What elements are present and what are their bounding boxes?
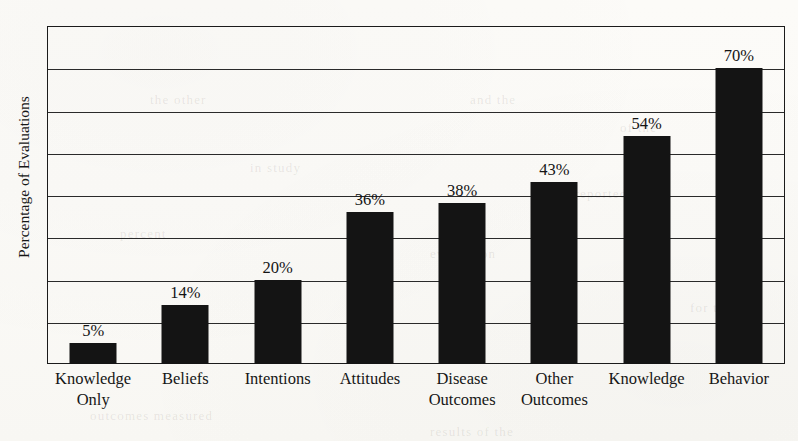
- x-axis-label-line: Only: [38, 389, 148, 410]
- bar-chart: Percentage of Evaluations 5%14%20%36%38%…: [0, 0, 798, 441]
- bar-slot: 36%: [324, 26, 416, 364]
- bar[interactable]: [70, 343, 117, 364]
- bar[interactable]: [715, 68, 762, 364]
- bar-slot: 54%: [601, 26, 693, 364]
- bar-slot: 5%: [47, 26, 139, 364]
- bar[interactable]: [346, 212, 393, 364]
- x-axis-label: Behavior: [684, 368, 794, 389]
- bar[interactable]: [531, 182, 578, 364]
- bars-layer: 5%14%20%36%38%43%54%70%: [47, 26, 785, 364]
- bar-value-label: 54%: [632, 114, 662, 134]
- bar-value-label: 5%: [82, 321, 104, 341]
- bar-value-label: 14%: [170, 283, 200, 303]
- bar-value-label: 70%: [724, 46, 754, 66]
- bar[interactable]: [439, 203, 486, 364]
- bar-value-label: 43%: [539, 160, 569, 180]
- bar-value-label: 20%: [263, 258, 293, 278]
- bar[interactable]: [254, 280, 301, 365]
- bar[interactable]: [162, 305, 209, 364]
- x-axis-label-line: Outcomes: [499, 389, 609, 410]
- x-axis-label-line: Behavior: [684, 368, 794, 389]
- bar-slot: 70%: [693, 26, 785, 364]
- y-axis-title: Percentage of Evaluations: [15, 67, 33, 287]
- bar-slot: 14%: [139, 26, 231, 364]
- bar-slot: 43%: [508, 26, 600, 364]
- bar[interactable]: [623, 136, 670, 364]
- bar-slot: 20%: [232, 26, 324, 364]
- bar-value-label: 36%: [355, 190, 385, 210]
- bar-value-label: 38%: [447, 181, 477, 201]
- bar-slot: 38%: [416, 26, 508, 364]
